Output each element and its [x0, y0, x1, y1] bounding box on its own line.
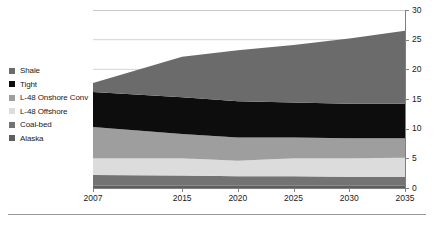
legend-label: Shale: [20, 66, 40, 75]
x-tick-mark: [294, 189, 295, 192]
legend-item-alaska[interactable]: Alaska: [9, 132, 95, 146]
legend-item-coal-bed[interactable]: Coal-bed: [9, 118, 95, 132]
stacked-area-svg: [93, 10, 405, 188]
legend-item-shale[interactable]: Shale: [9, 64, 95, 78]
y-tick-label: 5: [412, 154, 417, 162]
legend-swatch-icon: [9, 81, 15, 87]
y-tick-mark: [406, 158, 409, 159]
area-series-l-48-offshore: [93, 158, 405, 177]
y-tick-mark: [406, 69, 409, 70]
y-tick-mark: [406, 129, 409, 130]
legend-swatch-icon: [9, 68, 15, 74]
x-tick-mark: [93, 189, 94, 192]
legend-swatch-icon: [9, 135, 15, 141]
x-tick-label: 2015: [165, 194, 199, 203]
chart-figure: Shale Tight L-48 Onshore Conv L-48 Offsh…: [0, 0, 434, 228]
legend-item-tight[interactable]: Tight: [9, 78, 95, 92]
y-tick-mark: [406, 10, 409, 11]
plot-top-rule: [93, 10, 406, 11]
caption-divider: [8, 214, 426, 215]
chart-legend: Shale Tight L-48 Onshore Conv L-48 Offsh…: [9, 64, 95, 145]
legend-swatch-icon: [9, 122, 15, 128]
legend-item-l48-offshore[interactable]: L-48 Offshore: [9, 105, 95, 119]
legend-swatch-icon: [9, 108, 15, 114]
x-tick-label: 2035: [388, 194, 422, 203]
x-tick-label: 2025: [277, 194, 311, 203]
plot-area: [93, 10, 405, 188]
x-tick-label: 2030: [332, 194, 366, 203]
y-tick-label: 30: [412, 6, 421, 14]
x-tick-mark: [182, 189, 183, 192]
y-tick-label: 10: [412, 124, 421, 132]
legend-label: Coal-bed: [20, 120, 52, 129]
y-tick-label: 20: [412, 65, 421, 73]
legend-swatch-icon: [9, 95, 15, 101]
x-tick-mark: [405, 189, 406, 192]
x-tick-label: 2007: [76, 194, 110, 203]
legend-label: Tight: [20, 80, 37, 89]
x-tick-label: 2020: [221, 194, 255, 203]
legend-label: L-48 Offshore: [20, 107, 67, 116]
area-series-shale: [93, 31, 405, 104]
y-tick-mark: [406, 99, 409, 100]
y-tick-mark: [406, 40, 409, 41]
x-tick-mark: [349, 189, 350, 192]
legend-label: Alaska: [20, 134, 43, 143]
y-tick-label: 15: [412, 95, 421, 103]
y-tick-mark: [406, 188, 409, 189]
legend-label: L-48 Onshore Conv: [20, 93, 88, 102]
x-tick-mark: [238, 189, 239, 192]
legend-item-l48-onshore-conv[interactable]: L-48 Onshore Conv: [9, 91, 95, 105]
y-tick-label: 25: [412, 35, 421, 43]
y-tick-label: 0: [412, 184, 417, 192]
x-axis-line: [93, 188, 406, 189]
